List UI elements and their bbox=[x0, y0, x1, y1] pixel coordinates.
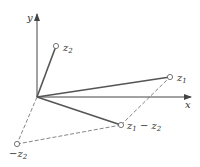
point-z1 bbox=[167, 74, 172, 79]
label-z1: z1 bbox=[176, 72, 187, 85]
label-z1-minus-z2: z1 − z2 bbox=[126, 120, 162, 133]
point-z1-minus-z2 bbox=[118, 122, 123, 127]
dashed-diff-to-z1 bbox=[121, 77, 170, 125]
label-z2: z2 bbox=[62, 42, 73, 55]
dashed-neg-z2-to-diff bbox=[17, 125, 121, 144]
point-z2 bbox=[53, 43, 58, 48]
y-axis-label: y bbox=[26, 12, 33, 23]
complex-plane-diagram: y x z2 z1 z1 − z2 −z2 bbox=[0, 0, 200, 167]
vector-z2 bbox=[37, 46, 56, 97]
x-axis-label: x bbox=[185, 99, 191, 110]
point-neg-z2 bbox=[14, 141, 19, 146]
dashed-origin-to-neg-z2 bbox=[17, 97, 37, 144]
label-neg-z2: −z2 bbox=[9, 148, 28, 161]
vector-z1-minus-z2 bbox=[37, 97, 121, 125]
vector-z1 bbox=[37, 77, 170, 97]
